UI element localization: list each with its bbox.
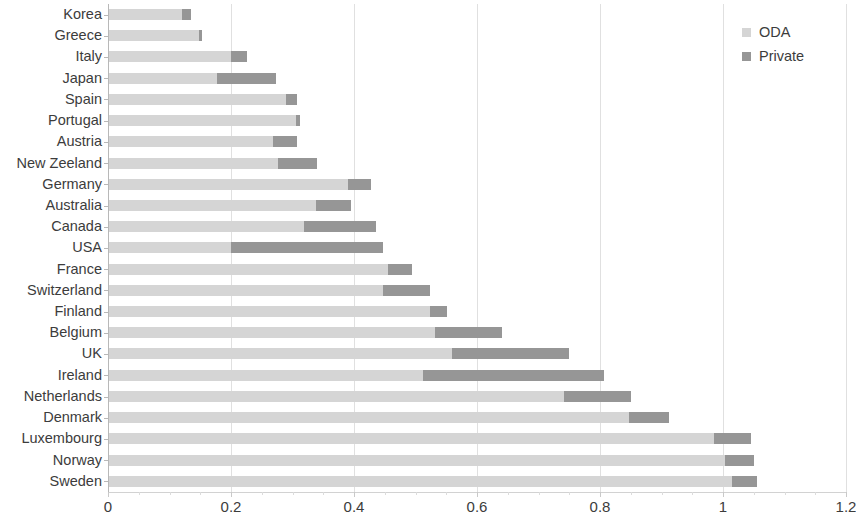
legend-label: Private bbox=[759, 48, 804, 64]
bar-row bbox=[108, 259, 846, 280]
bar-segment-private bbox=[435, 327, 501, 338]
bar-row bbox=[108, 195, 846, 216]
stacked-bar bbox=[108, 158, 317, 169]
bar-segment-private bbox=[286, 94, 297, 105]
x-axis-minor-tick bbox=[508, 492, 509, 495]
y-axis-label: Switzerland bbox=[0, 280, 102, 301]
stacked-bar bbox=[108, 179, 371, 190]
x-axis-label: 1.2 bbox=[836, 498, 856, 515]
y-axis-label: Norway bbox=[0, 450, 102, 471]
x-axis-minor-tick bbox=[200, 492, 201, 495]
y-axis-label: Portugal bbox=[0, 110, 102, 131]
bar-segment-private bbox=[182, 9, 191, 20]
x-axis-label: 1 bbox=[719, 498, 727, 515]
bar-row bbox=[108, 46, 846, 67]
bar-row bbox=[108, 237, 846, 258]
stacked-bar bbox=[108, 455, 754, 466]
y-axis-label: Australia bbox=[0, 195, 102, 216]
y-axis-labels: KoreaGreeceItalyJapanSpainPortugalAustri… bbox=[0, 4, 102, 492]
bar-row bbox=[108, 450, 846, 471]
bar-row bbox=[108, 471, 846, 492]
stacked-bar bbox=[108, 136, 297, 147]
stacked-bar bbox=[108, 115, 300, 126]
bar-segment-private bbox=[231, 51, 247, 62]
y-axis-line bbox=[108, 4, 109, 492]
bar-segment-private bbox=[296, 115, 300, 126]
bar-segment-private bbox=[388, 264, 413, 275]
x-axis-minor-tick bbox=[815, 492, 816, 495]
bar-row bbox=[108, 25, 846, 46]
x-axis-minor-tick bbox=[692, 492, 693, 495]
x-axis-minor-tick bbox=[139, 492, 140, 495]
x-axis-tick bbox=[723, 492, 724, 497]
y-axis-label: Luxembourg bbox=[0, 428, 102, 449]
x-axis-minor-tick bbox=[754, 492, 755, 495]
y-axis-label: Sweden bbox=[0, 471, 102, 492]
bar-row bbox=[108, 301, 846, 322]
x-axis-minor-tick bbox=[785, 492, 786, 495]
x-axis-minor-tick bbox=[539, 492, 540, 495]
bar-segment-private bbox=[231, 242, 383, 253]
x-axis-tick bbox=[108, 492, 109, 497]
bar-segment-oda bbox=[108, 285, 383, 296]
x-axis-minor-tick bbox=[293, 492, 294, 495]
x-axis-minor-tick bbox=[446, 492, 447, 495]
stacked-bar bbox=[108, 73, 276, 84]
y-axis-label: UK bbox=[0, 343, 102, 364]
bar-segment-oda bbox=[108, 158, 278, 169]
x-axis-label: 0.8 bbox=[590, 498, 611, 515]
bar-segment-oda bbox=[108, 327, 435, 338]
x-axis-minor-tick bbox=[416, 492, 417, 495]
bar-segment-oda bbox=[108, 179, 348, 190]
bar-segment-private bbox=[423, 370, 604, 381]
y-axis-label: Netherlands bbox=[0, 386, 102, 407]
y-axis-label: Denmark bbox=[0, 407, 102, 428]
bar-segment-oda bbox=[108, 221, 304, 232]
stacked-bar bbox=[108, 30, 202, 41]
legend-swatch-oda bbox=[742, 28, 751, 37]
bar-segment-private bbox=[430, 306, 448, 317]
bar-row bbox=[108, 407, 846, 428]
bar-row bbox=[108, 280, 846, 301]
bar-segment-oda bbox=[108, 200, 316, 211]
y-axis-label: Austria bbox=[0, 131, 102, 152]
x-axis-minor-tick bbox=[323, 492, 324, 495]
legend-swatch-private bbox=[742, 52, 751, 61]
legend-item: Private bbox=[742, 44, 852, 68]
x-axis-minor-tick bbox=[662, 492, 663, 495]
stacked-bar bbox=[108, 200, 351, 211]
stacked-bar bbox=[108, 264, 412, 275]
bar-row bbox=[108, 131, 846, 152]
y-axis-label: Spain bbox=[0, 89, 102, 110]
x-axis-label: 0.4 bbox=[344, 498, 365, 515]
bar-segment-private bbox=[217, 73, 275, 84]
x-axis-minor-tick bbox=[631, 492, 632, 495]
stacked-bar bbox=[108, 9, 191, 20]
y-axis-label: New Zeeland bbox=[0, 153, 102, 174]
x-axis-tick bbox=[846, 492, 847, 497]
bar-row bbox=[108, 216, 846, 237]
bar-segment-oda bbox=[108, 115, 296, 126]
stacked-bar bbox=[108, 51, 247, 62]
legend-item: ODA bbox=[742, 20, 852, 44]
bar-segment-private bbox=[714, 433, 751, 444]
bar-row bbox=[108, 68, 846, 89]
x-axis-tick bbox=[354, 492, 355, 497]
bar-segment-oda bbox=[108, 476, 732, 487]
plot-area bbox=[108, 4, 846, 492]
y-axis-label: Ireland bbox=[0, 365, 102, 386]
bar-segment-oda bbox=[108, 9, 182, 20]
bar-segment-private bbox=[732, 476, 757, 487]
bar-segment-oda bbox=[108, 242, 231, 253]
bar-segment-oda bbox=[108, 455, 725, 466]
bar-row bbox=[108, 365, 846, 386]
bar-segment-oda bbox=[108, 30, 199, 41]
y-axis-label: Korea bbox=[0, 4, 102, 25]
stacked-bar bbox=[108, 327, 502, 338]
bar-segment-oda bbox=[108, 73, 217, 84]
x-axis-labels: 00.20.40.60.811.2 bbox=[0, 498, 856, 524]
bar-chart: KoreaGreeceItalyJapanSpainPortugalAustri… bbox=[0, 0, 856, 528]
y-axis-label: France bbox=[0, 259, 102, 280]
bar-segment-private bbox=[348, 179, 371, 190]
x-axis-label: 0.6 bbox=[467, 498, 488, 515]
